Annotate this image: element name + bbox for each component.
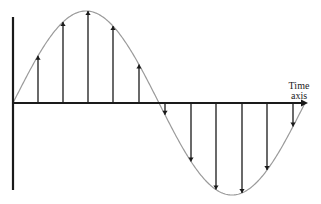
- time-axis-label-line2: axis: [284, 91, 314, 101]
- sample-arrow-11: [290, 103, 295, 126]
- sample-arrow-1: [35, 56, 40, 103]
- time-axis-label: Time axis: [284, 81, 314, 101]
- axes: [13, 17, 308, 190]
- diagram-canvas: [0, 0, 321, 204]
- sample-arrow-9: [239, 103, 244, 193]
- sample-arrow-5: [136, 65, 141, 103]
- sample-arrows: [35, 11, 295, 193]
- arrow-down-icon: [290, 122, 295, 126]
- sample-arrow-7: [188, 103, 193, 161]
- sampled-sine-diagram: Time axis: [0, 0, 321, 204]
- arrow-up-icon: [136, 65, 141, 69]
- sample-arrow-4: [110, 26, 115, 103]
- sample-arrow-8: [213, 103, 218, 190]
- sample-arrow-6: [162, 103, 167, 115]
- sample-arrow-3: [85, 11, 90, 103]
- sample-arrow-10: [264, 103, 269, 170]
- arrow-down-icon: [162, 111, 167, 115]
- sample-arrow-2: [60, 22, 65, 103]
